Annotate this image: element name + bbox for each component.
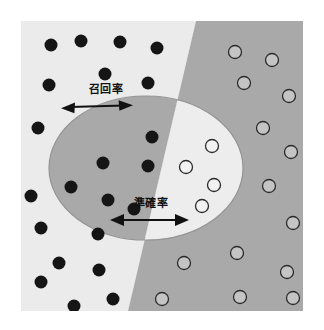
relevant-item-filled-dot [68, 300, 81, 313]
irrelevant-item-open-circle [283, 90, 296, 103]
relevant-item-filled-dot [99, 68, 112, 81]
relevant-item-filled-dot [32, 122, 45, 135]
irrelevant-item-open-circle [287, 292, 300, 305]
irrelevant-item-open-circle [229, 46, 242, 59]
irrelevant-item-open-circle [178, 257, 191, 270]
precision-recall-diagram: 召回率 準確率 [0, 0, 324, 330]
relevant-item-filled-dot [102, 194, 115, 207]
relevant-item-filled-dot [92, 228, 105, 241]
relevant-item-filled-dot [45, 39, 58, 52]
irrelevant-item-open-circle [180, 161, 193, 174]
irrelevant-item-open-circle [263, 180, 276, 193]
relevant-item-filled-dot [107, 293, 120, 306]
precision-label: 準確率 [134, 196, 168, 210]
relevant-item-filled-dot [142, 77, 155, 90]
relevant-item-filled-dot [146, 131, 159, 144]
relevant-item-filled-dot [75, 35, 88, 48]
relevant-item-filled-dot [97, 157, 110, 170]
irrelevant-item-open-circle [231, 247, 244, 260]
recall-label: 召回率 [89, 82, 123, 96]
irrelevant-item-open-circle [266, 54, 279, 67]
relevant-item-filled-dot [43, 79, 56, 92]
irrelevant-item-open-circle [206, 140, 219, 153]
irrelevant-item-open-circle [257, 122, 270, 135]
relevant-item-filled-dot [25, 190, 38, 203]
relevant-item-filled-dot [151, 42, 164, 55]
relevant-item-filled-dot [35, 276, 48, 289]
relevant-item-filled-dot [142, 160, 155, 173]
irrelevant-item-open-circle [287, 217, 300, 230]
relevant-item-filled-dot [65, 181, 78, 194]
figure-root: 召回率 準確率 [0, 0, 324, 330]
relevant-item-filled-dot [53, 257, 66, 270]
relevant-item-filled-dot [35, 222, 48, 235]
irrelevant-item-open-circle [285, 146, 298, 159]
irrelevant-item-open-circle [196, 200, 209, 213]
irrelevant-item-open-circle [281, 266, 294, 279]
irrelevant-item-open-circle [238, 77, 251, 90]
irrelevant-item-open-circle [234, 291, 247, 304]
irrelevant-item-open-circle [208, 179, 221, 192]
irrelevant-item-open-circle [156, 293, 169, 306]
relevant-item-filled-dot [93, 264, 106, 277]
relevant-item-filled-dot [114, 36, 127, 49]
